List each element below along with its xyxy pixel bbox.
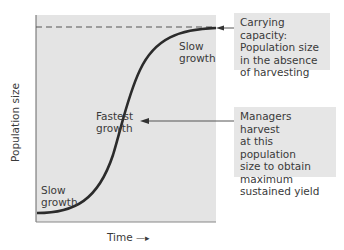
x-axis-label: Time —▸ xyxy=(107,231,150,243)
callout-line: of harvesting xyxy=(240,66,326,79)
slow-growth-top-label: Slow growth xyxy=(179,40,216,64)
slow-growth-bottom-label: Slow growth xyxy=(41,184,78,208)
callout-line: Population size xyxy=(240,41,326,54)
right-arrow-icon: —▸ xyxy=(136,233,150,243)
fastest-growth-label: Fastest growth xyxy=(96,110,133,134)
arrowhead-icon xyxy=(216,26,224,31)
callout-line: Carrying capacity: xyxy=(240,16,326,41)
callout-line: Managers harvest xyxy=(240,110,332,135)
callout-line: in the absence xyxy=(240,54,326,67)
harvest-callout: Managers harvest at this population size… xyxy=(234,107,336,177)
callout-line: maximum xyxy=(240,173,332,186)
callout-line: at this population xyxy=(240,135,332,160)
carrying-capacity-callout: Carrying capacity: Population size in th… xyxy=(234,13,330,70)
y-axis-label: Population size xyxy=(9,83,21,162)
callout-line: sustained yield xyxy=(240,185,332,198)
callout-line: size to obtain xyxy=(240,160,332,173)
